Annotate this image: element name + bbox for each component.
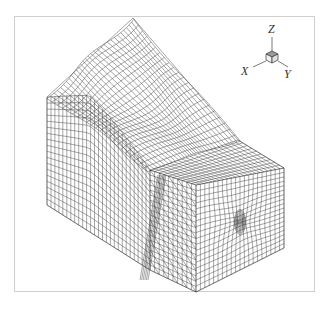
axis-label-z: Z — [268, 23, 275, 35]
axis-label-y: Y — [284, 68, 291, 80]
mesh-lines — [47, 18, 284, 292]
axis-label-x: X — [241, 65, 248, 77]
terrain-mesh — [0, 0, 331, 311]
